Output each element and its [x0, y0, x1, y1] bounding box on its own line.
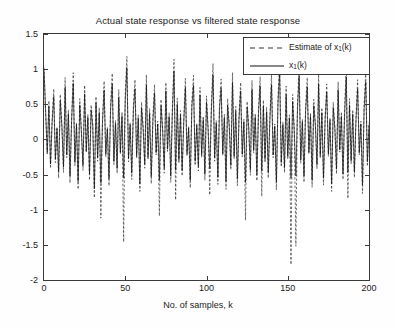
y-tick-mark	[44, 245, 48, 246]
x-tick-label: 150	[268, 283, 308, 293]
legend-label-estimate: Estimate of x1(k)	[289, 43, 352, 53]
y-tick-mark	[365, 280, 369, 281]
y-tick-mark	[44, 34, 48, 35]
y-tick-mark	[44, 280, 48, 281]
y-tick-mark	[365, 34, 369, 35]
x-tick-label: 50	[105, 283, 145, 293]
y-tick-mark	[44, 175, 48, 176]
legend: Estimate of x1(k) x1(k)	[243, 37, 370, 75]
series-estimate-line	[44, 56, 369, 264]
y-tick-mark	[365, 175, 369, 176]
y-tick-mark	[365, 104, 369, 105]
x-tick-mark	[207, 276, 208, 280]
y-tick-label: 1	[0, 64, 38, 74]
y-tick-label: 0.5	[0, 99, 38, 109]
y-tick-label: -1.5	[0, 240, 38, 250]
x-tick-mark	[288, 276, 289, 280]
x-tick-mark	[125, 276, 126, 280]
legend-solid-swatch	[249, 60, 285, 72]
legend-label-actual: x1(k)	[289, 61, 307, 71]
legend-actual-suffix: (k)	[297, 60, 307, 70]
y-tick-mark	[44, 69, 48, 70]
legend-estimate-suffix: (k)	[342, 42, 352, 52]
legend-dashed-swatch	[249, 42, 285, 54]
y-tick-label: 0	[0, 134, 38, 144]
y-tick-mark	[44, 104, 48, 105]
y-tick-mark	[365, 245, 369, 246]
series-actual-line	[44, 68, 369, 189]
y-tick-mark	[365, 210, 369, 211]
figure-container: Actual state response vs filtered state …	[0, 0, 396, 327]
chart-title: Actual state response vs filtered state …	[0, 15, 396, 26]
y-tick-label: -1	[0, 205, 38, 215]
legend-item-estimate: Estimate of x1(k)	[244, 38, 371, 57]
x-tick-label: 100	[187, 283, 227, 293]
x-tick-label: 200	[349, 283, 389, 293]
y-tick-label: -0.5	[0, 170, 38, 180]
legend-item-actual: x1(k)	[244, 56, 371, 75]
y-tick-mark	[44, 139, 48, 140]
y-tick-label: 1.5	[0, 29, 38, 39]
legend-estimate-prefix: Estimate of x	[289, 42, 338, 52]
x-tick-mark	[125, 34, 126, 38]
x-tick-mark	[207, 34, 208, 38]
y-tick-mark	[365, 139, 369, 140]
x-axis-label: No. of samples, k	[0, 300, 396, 310]
y-tick-mark	[44, 210, 48, 211]
x-tick-label: 0	[24, 283, 64, 293]
